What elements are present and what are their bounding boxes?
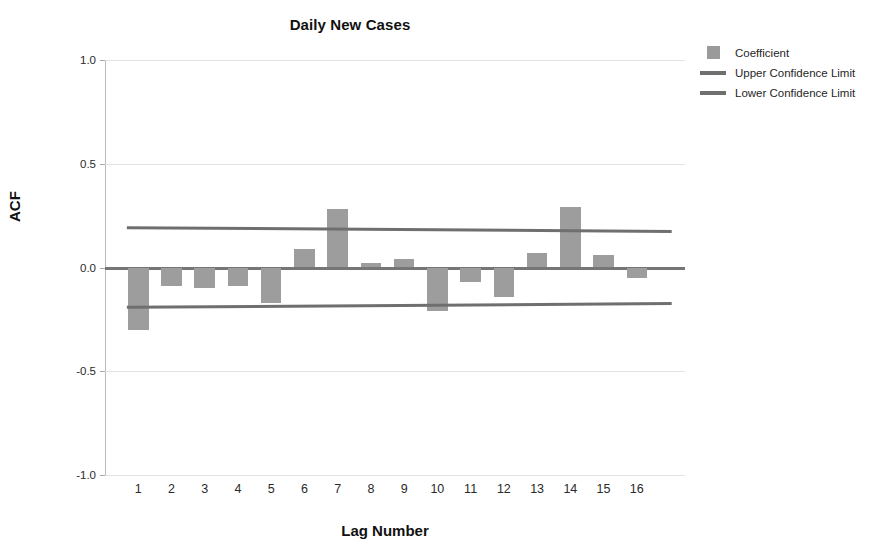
lower-confidence-limit-line (127, 304, 672, 308)
x-tick-label: 8 (367, 482, 374, 496)
x-tick-label: 1 (135, 482, 142, 496)
x-tick-label: 5 (268, 482, 275, 496)
legend-line-icon (700, 86, 726, 99)
x-tick-label: 9 (401, 482, 408, 496)
gridline (105, 475, 685, 476)
page-title: Daily New Cases (0, 16, 700, 33)
upper-confidence-limit-line (127, 228, 672, 232)
x-axis-title: Lag Number (105, 522, 665, 539)
legend-item-coefficient: Coefficient (700, 44, 890, 61)
legend-label: Upper Confidence Limit (735, 67, 855, 79)
x-tick-label: 13 (530, 482, 544, 496)
y-tick-label: 0.0 (80, 262, 96, 274)
acf-correlogram-chart: Daily New Cases Coefficient Upper Confid… (0, 0, 894, 560)
x-tick-label: 4 (234, 482, 241, 496)
legend-line-icon (700, 66, 726, 79)
x-tick-label: 3 (201, 482, 208, 496)
legend-swatch-icon (700, 46, 726, 59)
plot-area: 1.00.50.0-0.5-1.0 (105, 60, 685, 475)
legend-label: Lower Confidence Limit (735, 87, 855, 99)
x-tick-label: 12 (497, 482, 511, 496)
x-tick-label: 2 (168, 482, 175, 496)
y-tick-label: -0.5 (76, 365, 96, 377)
x-tick-label: 11 (464, 482, 477, 496)
confidence-limit-lines (105, 60, 685, 475)
y-tick-label: 1.0 (80, 54, 96, 66)
x-tick-label: 7 (334, 482, 341, 496)
y-axis-title: ACF (6, 191, 23, 222)
legend-item-lower-confidence-limit: Lower Confidence Limit (700, 84, 890, 101)
legend-label: Coefficient (735, 47, 789, 59)
x-tick-label: 15 (597, 482, 611, 496)
y-tick-label: -1.0 (76, 469, 96, 481)
x-tick-label: 14 (563, 482, 577, 496)
x-tick-label: 16 (630, 482, 644, 496)
x-tick-label: 6 (301, 482, 308, 496)
chart-legend: Coefficient Upper Confidence Limit Lower… (700, 44, 890, 104)
y-tick-label: 0.5 (80, 158, 96, 170)
x-tick-label: 10 (430, 482, 444, 496)
y-tick-mark (100, 475, 105, 476)
legend-item-upper-confidence-limit: Upper Confidence Limit (700, 64, 890, 81)
